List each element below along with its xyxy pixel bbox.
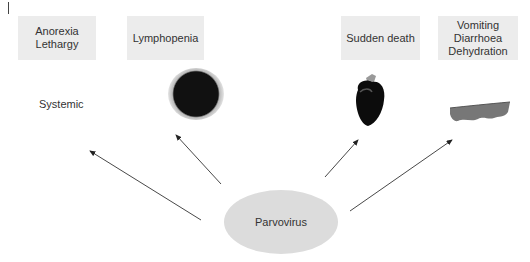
arrow-to-sudden-death <box>325 140 358 177</box>
arrow-to-lymphopenia <box>176 135 221 184</box>
parvovirus-node: Parvovirus <box>224 190 338 254</box>
parvovirus-label: Parvovirus <box>255 216 307 228</box>
arrow-to-systemic <box>90 151 201 220</box>
arrow-to-gi-signs <box>350 140 452 211</box>
